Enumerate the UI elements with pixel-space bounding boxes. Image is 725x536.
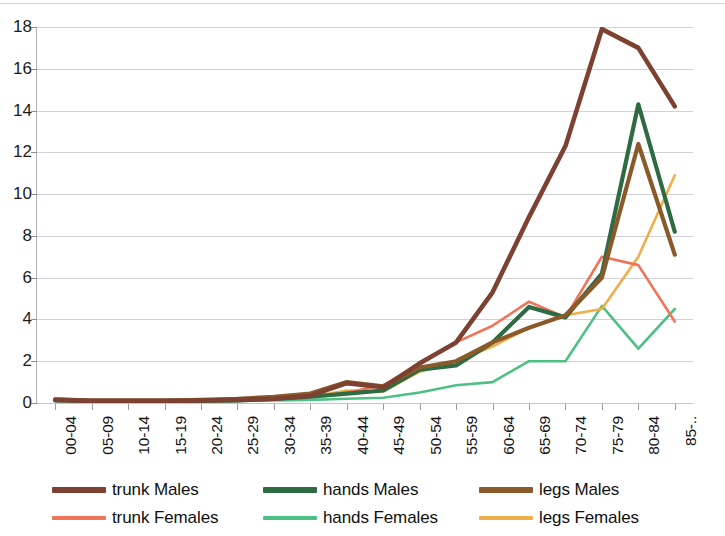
x-axis-tick-label: 50-54 xyxy=(427,416,445,455)
legend-color-swatch xyxy=(479,516,533,520)
y-axis-tick-label: 16 xyxy=(0,60,32,77)
legend-item-label: legs Females xyxy=(539,508,639,528)
x-axis-tick-label: 35-39 xyxy=(317,416,335,455)
x-axis-tick-label: 25-29 xyxy=(244,416,262,455)
x-axis-tick-mark xyxy=(493,404,494,410)
x-axis-tick-label: 55-59 xyxy=(463,416,481,455)
series-line xyxy=(55,29,675,401)
line-chart: 024681012141618 00-0405-0910-1415-1920-2… xyxy=(0,0,725,470)
x-axis-tick-mark xyxy=(529,404,530,410)
legend-item[interactable]: trunk Males xyxy=(52,478,199,502)
x-axis-tick-mark xyxy=(347,404,348,410)
x-axis-tick-mark xyxy=(565,404,566,410)
x-axis-tick-label: 70-74 xyxy=(572,416,590,455)
series-lines xyxy=(37,27,693,403)
x-axis-tick-label: 15-19 xyxy=(172,416,190,455)
legend-color-swatch xyxy=(263,487,317,493)
x-axis-tick-mark xyxy=(638,404,639,410)
y-axis-tick-label: 14 xyxy=(0,102,32,119)
legend-color-swatch xyxy=(52,487,106,493)
legend-item[interactable]: legs Males xyxy=(479,478,619,502)
y-axis-tick-label: 18 xyxy=(0,18,32,35)
y-axis-tick-label: 2 xyxy=(0,352,32,369)
x-axis-tick-label: 40-44 xyxy=(354,416,372,455)
x-axis-tick-label: 45-49 xyxy=(390,416,408,455)
legend-item-label: hands Males xyxy=(323,480,418,500)
x-axis-tick-label: 65-69 xyxy=(536,416,554,455)
legend-item[interactable]: trunk Females xyxy=(52,506,218,530)
x-axis-tick-mark xyxy=(310,404,311,410)
x-axis-tick-mark xyxy=(237,404,238,410)
x-axis-tick-label: 60-64 xyxy=(500,416,518,455)
legend-color-swatch xyxy=(479,487,533,493)
x-axis-tick-label: 20-24 xyxy=(208,416,226,455)
y-axis-tick-label: 6 xyxy=(0,269,32,286)
x-axis-tick-mark xyxy=(55,404,56,410)
series-line xyxy=(55,257,675,401)
x-axis-tick-mark xyxy=(128,404,129,410)
x-axis-tick-label: 30-34 xyxy=(281,416,299,455)
legend-item[interactable]: legs Females xyxy=(479,506,639,530)
legend-color-swatch xyxy=(52,516,106,520)
legend-item-label: hands Females xyxy=(323,508,438,528)
y-axis-tick-label: 4 xyxy=(0,310,32,327)
y-axis-tick-label: 12 xyxy=(0,143,32,160)
legend-item[interactable]: hands Males xyxy=(263,478,418,502)
legend-item-label: trunk Males xyxy=(112,480,199,500)
y-axis-tick-label: 10 xyxy=(0,185,32,202)
series-line xyxy=(55,104,675,401)
x-axis-tick-label: 80-84 xyxy=(645,416,663,455)
chart-legend: trunk Maleshands Maleslegs Malestrunk Fe… xyxy=(0,470,725,536)
x-axis-tick-mark xyxy=(165,404,166,410)
y-axis-tick-mark xyxy=(31,403,37,404)
x-axis-tick-mark xyxy=(383,404,384,410)
x-axis-tick-label: 00-04 xyxy=(62,416,80,455)
chart-page: 024681012141618 00-0405-0910-1415-1920-2… xyxy=(0,0,725,536)
x-axis-tick-label: 85-.. xyxy=(682,416,700,446)
series-line xyxy=(55,144,675,401)
x-axis-tick-mark xyxy=(92,404,93,410)
x-axis-tick-mark xyxy=(456,404,457,410)
y-axis-tick-label: 8 xyxy=(0,227,32,244)
x-axis-tick-label: 05-09 xyxy=(99,416,117,455)
legend-color-swatch xyxy=(263,516,317,520)
y-axis-tick-label: 0 xyxy=(0,394,32,411)
x-axis-tick-label: 10-14 xyxy=(135,416,153,455)
x-axis-tick-label: 75-79 xyxy=(609,416,627,455)
x-axis-tick-mark xyxy=(420,404,421,410)
legend-item[interactable]: hands Females xyxy=(263,506,438,530)
gridline xyxy=(37,403,693,404)
x-axis-tick-mark xyxy=(201,404,202,410)
legend-item-label: trunk Females xyxy=(112,508,218,528)
x-axis-tick-mark xyxy=(602,404,603,410)
x-axis-tick-mark xyxy=(675,404,676,410)
x-axis-tick-mark xyxy=(274,404,275,410)
legend-item-label: legs Males xyxy=(539,480,619,500)
